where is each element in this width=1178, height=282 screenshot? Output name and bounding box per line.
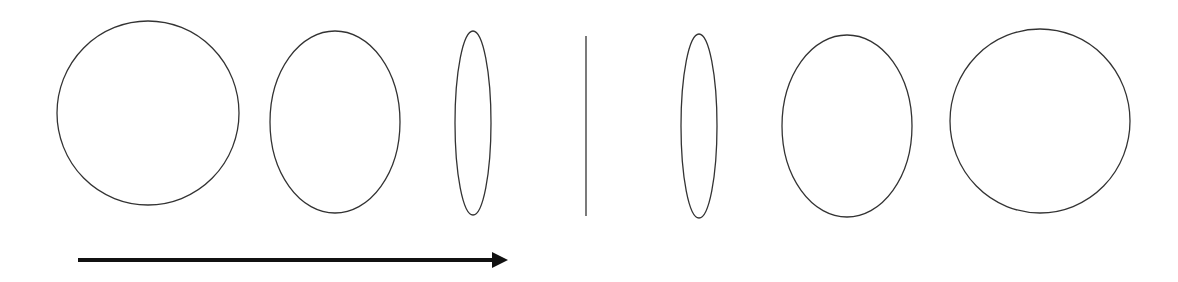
ellipse-sequence-diagram bbox=[0, 0, 1178, 282]
circle-left bbox=[57, 21, 239, 205]
circle-right bbox=[950, 29, 1130, 213]
ellipse-group bbox=[57, 21, 1130, 218]
thin-ellipse-left bbox=[455, 31, 491, 215]
ellipse-right bbox=[782, 35, 912, 217]
thin-ellipse-right bbox=[681, 34, 717, 218]
arrow-head bbox=[492, 252, 508, 268]
ellipse-left bbox=[270, 31, 400, 213]
direction-arrow-icon bbox=[78, 252, 508, 268]
